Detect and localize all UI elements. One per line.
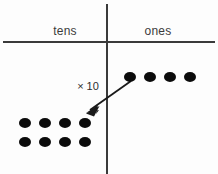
ones-column-dot [144,72,156,82]
ones-column-dot [164,72,176,82]
column-label-tens: tens [53,24,76,38]
column-label-ones: ones [145,24,172,38]
tens-column-dot [79,118,91,128]
tens-column-dot [59,118,71,128]
tens-column-dot [19,137,31,147]
place-value-chart: tens ones × 10 [0,0,218,174]
multiply-by-ten-label: × 10 [77,80,99,92]
tens-column-dot [59,137,71,147]
tens-column-dot [39,118,51,128]
tens-column-dot [19,118,31,128]
ones-column-dot [184,72,196,82]
chart-lines-and-arrow-layer [0,0,218,174]
ones-column-dot [124,72,136,82]
tens-column-dot [79,137,91,147]
tens-column-dot [39,137,51,147]
